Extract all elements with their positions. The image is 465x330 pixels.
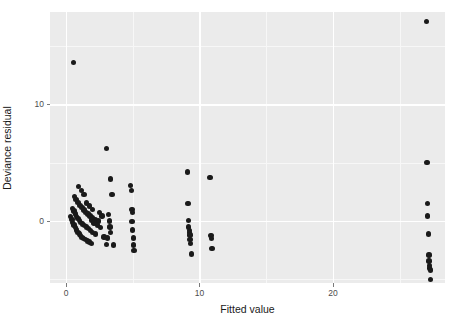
- data-point: [99, 213, 104, 218]
- data-point: [105, 235, 110, 240]
- data-point: [109, 192, 114, 197]
- data-point: [131, 242, 136, 247]
- y-tick-mark: [47, 221, 51, 222]
- data-point: [129, 219, 134, 224]
- x-tick-label: 0: [64, 288, 69, 298]
- gridline-major-vertical: [199, 12, 200, 283]
- data-point: [424, 160, 429, 165]
- y-tick-mark: [47, 104, 51, 105]
- data-point: [107, 224, 112, 229]
- data-point: [111, 242, 116, 247]
- x-axis-title: Fitted value: [50, 303, 445, 316]
- x-tick-label: 10: [195, 288, 204, 298]
- data-point: [71, 60, 76, 65]
- data-point: [131, 235, 136, 240]
- data-point: [188, 241, 193, 246]
- data-point: [108, 176, 113, 181]
- y-tick-label: 10: [35, 99, 44, 109]
- data-point: [104, 146, 109, 151]
- gridline-minor-vertical: [266, 12, 267, 283]
- data-point: [104, 242, 109, 247]
- data-point: [189, 251, 194, 256]
- gridline-minor-horizontal: [50, 279, 445, 280]
- data-point: [130, 227, 135, 232]
- data-point: [428, 277, 433, 282]
- y-axis-title: Deviance residual: [0, 12, 14, 283]
- data-point: [425, 201, 430, 206]
- scatter-plot-figure: 01020010 Fitted value Deviance residual: [0, 0, 465, 330]
- data-point: [131, 248, 136, 253]
- data-point: [106, 212, 111, 217]
- x-tick-mark: [333, 283, 334, 287]
- x-tick-label: 20: [328, 288, 337, 298]
- data-point: [424, 19, 429, 24]
- x-tick-mark: [66, 283, 67, 287]
- data-point: [209, 246, 214, 251]
- y-tick-label: 0: [39, 216, 44, 226]
- data-point: [209, 236, 214, 241]
- gridline-minor-horizontal: [50, 163, 445, 164]
- data-point: [107, 218, 112, 223]
- data-point: [185, 169, 190, 174]
- data-point: [98, 225, 103, 230]
- gridline-minor-horizontal: [50, 46, 445, 47]
- data-point: [90, 207, 95, 212]
- data-point: [89, 241, 94, 246]
- data-point: [426, 252, 431, 257]
- data-point: [130, 210, 135, 215]
- gridline-major-vertical: [333, 12, 334, 283]
- plot-panel: [50, 12, 445, 283]
- data-point: [428, 267, 433, 272]
- gridline-major-horizontal: [50, 104, 445, 105]
- gridline-major-vertical: [66, 12, 67, 283]
- x-tick-mark: [199, 283, 200, 287]
- data-point: [185, 201, 190, 206]
- gridline-minor-vertical: [400, 12, 401, 283]
- data-point: [108, 230, 113, 235]
- data-point: [93, 231, 98, 236]
- data-point: [426, 231, 431, 236]
- data-point: [81, 192, 86, 197]
- y-axis-title-label: Deviance residual: [1, 106, 13, 189]
- data-point: [207, 175, 212, 180]
- data-point: [425, 213, 430, 218]
